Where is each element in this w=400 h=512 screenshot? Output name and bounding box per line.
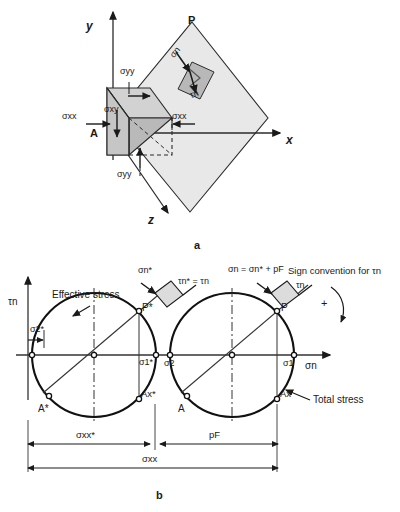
dim-label-pF: pF <box>209 430 220 440</box>
label-sigma1-star: σ1* <box>139 358 153 367</box>
sign-convention-arc <box>331 287 344 322</box>
dim-label-sigma-xx: σxx <box>142 454 157 464</box>
label-sigma2: σ2 <box>164 359 175 368</box>
axis-label-y: y <box>86 20 93 32</box>
label-sigma-yy-top: σyy <box>120 67 135 76</box>
stress-figure-canvas <box>0 0 400 512</box>
plane-label-P: P <box>188 15 195 26</box>
label-sigma-xy: σxy <box>104 105 119 114</box>
annotation-sign-plus: + <box>321 298 327 309</box>
effective-stress-leader <box>73 306 90 316</box>
point-center-total <box>229 352 234 357</box>
point-Ax <box>274 396 279 401</box>
axis-label-z: z <box>148 214 154 226</box>
corner-label-A: A <box>90 128 98 139</box>
label-sigma-yy-bottom: σyy <box>117 170 132 179</box>
point-sigma2-star <box>29 352 34 357</box>
panel-a-caption: a <box>194 240 200 251</box>
point-sigma1-star <box>153 352 158 357</box>
point-label-A: A <box>178 404 185 414</box>
point-center-effective <box>91 352 96 357</box>
point-A <box>184 393 189 398</box>
point-P <box>274 308 279 313</box>
point-label-P-star: P* <box>142 303 153 313</box>
dim-label-sigma-xx-star: σxx* <box>76 430 95 440</box>
annotation-sign-convention: Sign convention for τn <box>288 266 381 276</box>
mohr-axis-label-tau: τn <box>8 297 18 307</box>
point-P-star <box>136 308 141 313</box>
panel-b-group <box>16 277 344 472</box>
label-element-right-tau: τn <box>296 281 305 290</box>
axis-label-x: x <box>286 134 293 146</box>
point-label-Ax: Ax <box>280 389 291 399</box>
label-sigma2-star: σ2* <box>30 325 44 334</box>
mohr-axis-label-sigma: σn <box>305 361 317 371</box>
point-label-A-star: A* <box>38 404 49 414</box>
label-sigma-xx-left: σxx <box>62 112 77 121</box>
point-label-P: P <box>281 303 288 313</box>
label-element-left-tau: τn* = τn <box>178 277 209 286</box>
label-sigma1: σ1 <box>283 359 294 368</box>
label-element-right-sigma: σn = σn* + pF <box>228 265 284 274</box>
point-sigma1 <box>291 352 296 357</box>
point-label-Ax-star: Ax* <box>141 389 156 399</box>
panel-b-caption: b <box>156 490 163 501</box>
label-element-left-sigma: σn* <box>138 266 152 275</box>
label-sigma-xx-right: σxx <box>172 112 187 121</box>
annotation-effective-stress: Effective stress <box>52 290 120 300</box>
annotation-total-stress: Total stress <box>313 395 364 405</box>
point-sigma2 <box>167 352 172 357</box>
point-A-star <box>46 393 51 398</box>
